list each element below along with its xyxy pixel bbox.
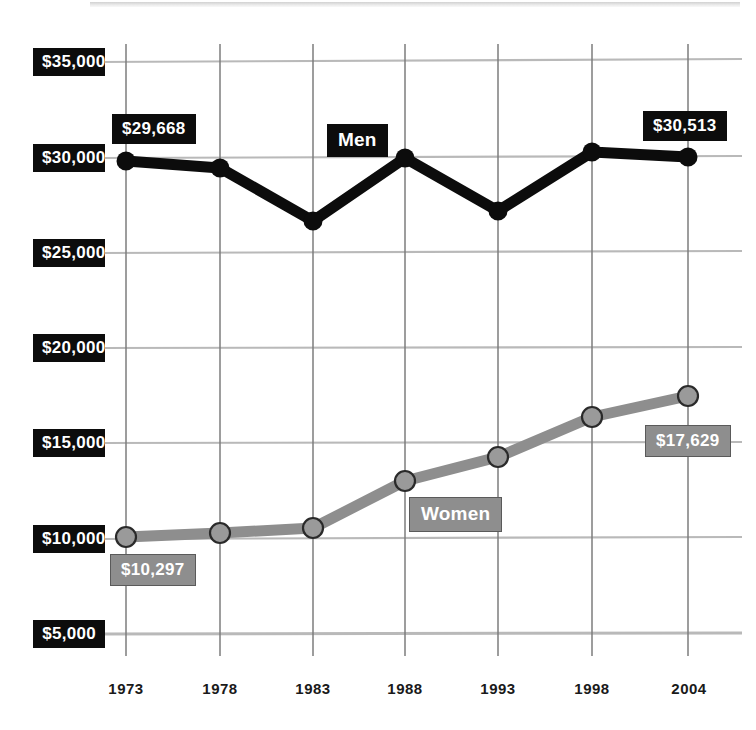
series-label-men: Men: [327, 124, 388, 157]
x-tick-label-1983: 1983: [295, 680, 330, 697]
x-tick-label-2004: 2004: [671, 680, 706, 697]
horizontal-gridlines: [96, 59, 742, 634]
x-tick-label-1978: 1978: [202, 680, 237, 697]
vertical-gridlines: [126, 44, 688, 656]
women-start-value-callout: $10,297: [110, 554, 196, 586]
women-end-value-callout: $17,629: [645, 425, 731, 457]
x-tick-label-1988: 1988: [387, 680, 422, 697]
x-tick-label-1973: 1973: [108, 680, 143, 697]
series-label-women: Women: [409, 497, 502, 532]
series-line-women: [116, 386, 698, 547]
x-tick-label-1998: 1998: [574, 680, 609, 697]
x-tick-label-1993: 1993: [480, 680, 515, 697]
y-tick-label-5000: $5,000: [33, 620, 105, 648]
men-end-value-callout: $30,513: [643, 111, 727, 141]
men-start-value-callout: $29,668: [112, 114, 196, 144]
y-tick-label-30000: $30,000: [33, 144, 105, 172]
y-tick-label-20000: $20,000: [33, 334, 105, 362]
y-tick-label-15000: $15,000: [33, 429, 105, 457]
y-tick-label-25000: $25,000: [33, 239, 105, 267]
series-line-men: [117, 143, 698, 231]
y-tick-label-10000: $10,000: [33, 525, 105, 553]
income-line-chart: $35,000 $30,000 $25,000 $20,000 $15,000 …: [0, 0, 756, 730]
y-tick-label-35000: $35,000: [33, 48, 105, 76]
chart-plot-area: [0, 0, 756, 730]
